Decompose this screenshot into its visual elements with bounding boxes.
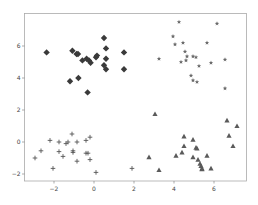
scatter-chart: −20246 −20246 <box>0 0 258 205</box>
x-tick-label: 6 <box>212 185 216 192</box>
plot-background <box>0 0 258 205</box>
y-tick-label: −2 <box>12 170 21 177</box>
y-tick-label: 4 <box>17 74 21 81</box>
y-tick-label: 2 <box>17 106 21 113</box>
scatter-plot: −20246 −20246 <box>0 0 258 205</box>
y-tick-label: 0 <box>17 138 21 145</box>
x-tick-label: 2 <box>132 185 136 192</box>
x-tick-label: 4 <box>172 185 176 192</box>
y-tick-label: 6 <box>17 42 21 49</box>
x-tick-label: −2 <box>50 185 59 192</box>
x-tick-label: 0 <box>92 185 96 192</box>
